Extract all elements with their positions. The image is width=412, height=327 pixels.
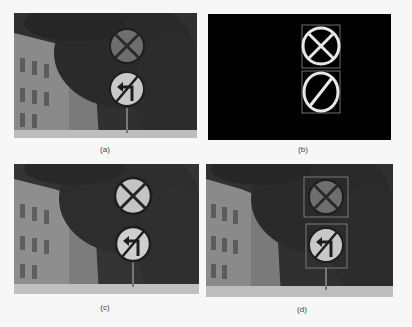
no-left-turn-sign — [309, 228, 343, 262]
panel-c-enhanced-photo — [14, 164, 199, 294]
enhanced-street-scene-image — [14, 164, 199, 294]
binary-mask-image — [208, 14, 391, 140]
caption-a: (a) — [100, 145, 110, 154]
no-stopping-sign — [115, 178, 151, 214]
street-scene-image — [14, 13, 197, 138]
no-left-turn-sign — [116, 227, 150, 261]
panel-d-detection-result — [206, 164, 393, 297]
detection-result-image — [206, 164, 393, 297]
panel-a-original-photo — [14, 13, 197, 138]
no-stopping-sign — [110, 29, 144, 63]
no-left-turn-sign — [110, 72, 144, 106]
caption-c: (c) — [100, 303, 109, 312]
panel-b-detection-mask — [208, 14, 391, 140]
caption-b: (b) — [298, 145, 308, 154]
caption-d: (d) — [297, 305, 307, 314]
no-stopping-sign — [309, 180, 343, 214]
